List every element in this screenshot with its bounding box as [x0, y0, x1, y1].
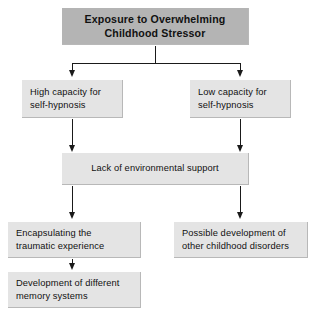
node-possible-development-label: Possible development of other childhood …: [182, 227, 289, 252]
node-low-capacity: Low capacity for self-hypnosis: [190, 80, 291, 118]
arrowhead-root-to-high-capacity: [69, 70, 75, 77]
flowchart-diagram: Exposure to Overwhelming Childhood Stres…: [0, 0, 316, 319]
node-encapsulating-label: Encapsulating the traumatic experience: [16, 227, 104, 252]
node-root-label: Exposure to Overwhelming Childhood Stres…: [85, 12, 226, 40]
connector-high-capacity-to-lack-support: [72, 119, 73, 147]
node-root: Exposure to Overwhelming Childhood Stres…: [62, 8, 249, 45]
connector-low-capacity-to-lack-support: [240, 119, 241, 147]
node-memory-systems: Development of different memory systems: [8, 272, 141, 308]
node-lack-support-label: Lack of environmental support: [91, 162, 218, 175]
arrowhead-lack-support-to-possible-development: [237, 212, 243, 219]
arrowhead-low-capacity-to-lack-support: [237, 145, 243, 152]
node-high-capacity: High capacity for self-hypnosis: [22, 80, 123, 118]
node-encapsulating: Encapsulating the traumatic experience: [8, 222, 141, 258]
connector-lack-support-to-possible-development: [240, 186, 241, 214]
node-low-capacity-label: Low capacity for self-hypnosis: [198, 86, 267, 111]
node-lack-support: Lack of environmental support: [62, 153, 249, 185]
arrowhead-lack-support-to-encapsulating: [69, 212, 75, 219]
node-possible-development: Possible development of other childhood …: [174, 222, 308, 258]
connector-root-stem: [155, 46, 156, 64]
node-memory-systems-label: Development of different memory systems: [16, 277, 120, 302]
arrowhead-root-to-low-capacity: [237, 70, 243, 77]
connector-root-split: [72, 63, 241, 64]
connector-lack-support-to-encapsulating: [72, 186, 73, 214]
arrowhead-high-capacity-to-lack-support: [69, 145, 75, 152]
node-high-capacity-label: High capacity for self-hypnosis: [30, 86, 101, 111]
arrowhead-encapsulating-to-memory-systems: [69, 263, 75, 270]
